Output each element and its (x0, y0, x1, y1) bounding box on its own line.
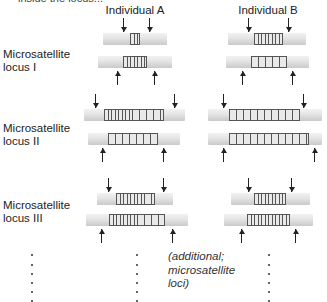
microsatellite-repeat-region (108, 133, 158, 145)
microsatellite-repeat-region (254, 193, 286, 205)
ellipsis-dot (136, 282, 138, 284)
locus-2-label-line2: locus II (3, 135, 70, 148)
additional-loci-note: (additional; microsatellite loci) (168, 250, 235, 291)
cropped-caption: inside the locus... (18, 0, 103, 4)
locus-3-label-line1: Microsatellite (3, 199, 70, 212)
ellipsis-dot (136, 291, 138, 293)
microsatellite-repeat-region (130, 33, 140, 45)
microsatellite-repeat-region (229, 133, 309, 145)
chromosome-segment-I-A-2 (98, 56, 172, 68)
locus-3-label: Microsatellite locus III (3, 199, 70, 225)
ellipsis-dot (136, 254, 138, 256)
chromosome-segment-I-A-1 (103, 33, 167, 45)
ellipsis-dot (31, 273, 33, 275)
chromosome-segment-III-B-2 (224, 214, 313, 226)
chromosome-segment-I-B-2 (226, 56, 309, 68)
chromosome-segment-II-B-2 (208, 133, 322, 145)
individual-a-label: Individual A (106, 4, 165, 16)
locus-1-label-line1: Microsatellite (3, 48, 70, 61)
chromosome-segment-I-B-1 (228, 33, 306, 45)
ellipsis-dot (136, 264, 138, 266)
ellipsis-dot (268, 291, 270, 293)
microsatellite-repeat-region (254, 33, 283, 45)
ellipsis-dot (268, 273, 270, 275)
chromosome-segment-III-B-1 (231, 193, 310, 205)
note-line3: loci) (168, 277, 235, 291)
microsatellite-repeat-region (104, 109, 164, 121)
chromosome-segment-III-A-2 (86, 214, 188, 226)
ellipsis-dot (31, 254, 33, 256)
chromosome-segment-III-A-1 (97, 193, 173, 205)
microsatellite-repeat-region (123, 56, 147, 68)
ellipsis-dot (268, 264, 270, 266)
ellipsis-dot (31, 291, 33, 293)
microsatellite-repeat-region (116, 193, 155, 205)
note-line1: (additional; (168, 250, 235, 264)
chromosome-segment-II-A-1 (84, 109, 185, 121)
ellipsis-dot (136, 273, 138, 275)
ellipsis-dot (31, 282, 33, 284)
individual-b-label: Individual B (238, 4, 297, 16)
locus-1-label: Microsatellite locus I (3, 48, 70, 74)
ellipsis-dot (268, 282, 270, 284)
locus-1-label-line2: locus I (3, 61, 70, 74)
ellipsis-dot (31, 264, 33, 266)
locus-2-label: Microsatellite locus II (3, 122, 70, 148)
ellipsis-dot (268, 254, 270, 256)
microsatellite-repeat-region (229, 109, 300, 121)
microsatellite-repeat-region (251, 56, 287, 68)
locus-2-label-line1: Microsatellite (3, 122, 70, 135)
microsatellite-repeat-region (109, 214, 165, 226)
locus-3-label-line2: locus III (3, 212, 70, 225)
chromosome-segment-II-B-1 (208, 109, 322, 121)
note-line2: microsatellite (168, 264, 235, 278)
chromosome-segment-II-A-2 (88, 133, 180, 145)
microsatellite-repeat-region (247, 214, 290, 226)
